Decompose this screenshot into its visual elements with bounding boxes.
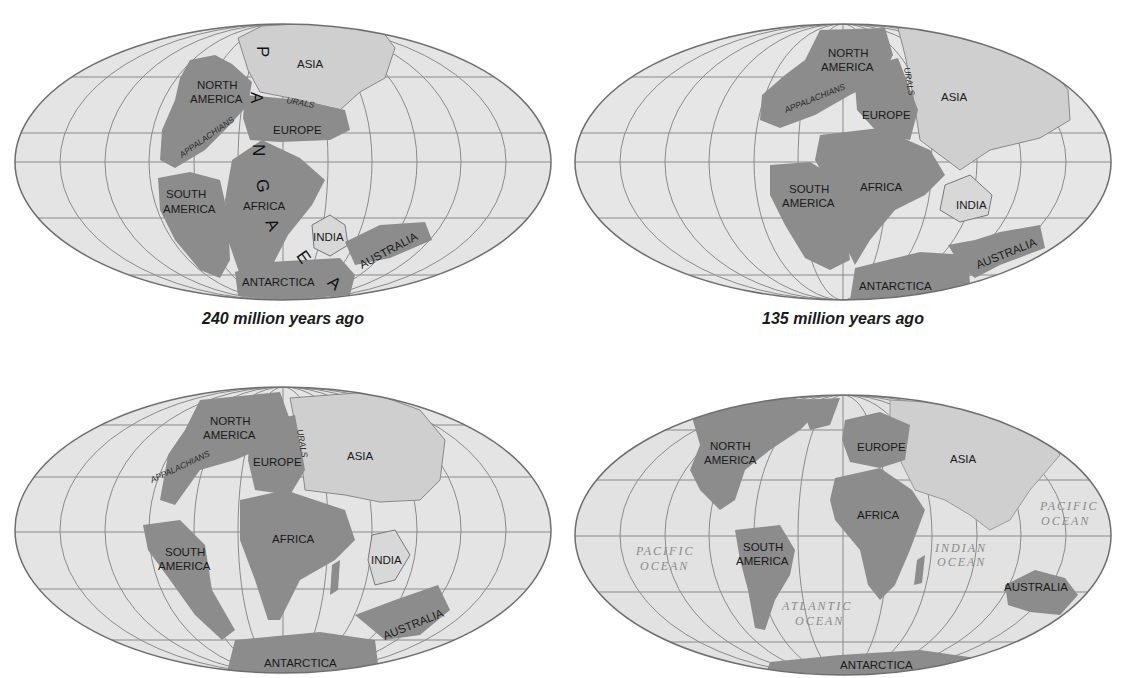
label-europe: EUROPE [273, 124, 322, 136]
label-south-america-line1: SOUTH [165, 546, 205, 558]
label-north-america-line2: AMERICA [203, 429, 256, 441]
label-north-america-line2: AMERICA [190, 93, 243, 105]
label-south-america-line1: SOUTH [166, 188, 206, 200]
label-pacific-ocean-west-line1: PACIFIC [635, 544, 694, 558]
svg-text:N: N [249, 144, 268, 156]
label-north-america-line1: NORTH [210, 415, 251, 427]
label-antarctica: ANTARCTICA [859, 280, 932, 292]
label-indian-ocean-line2: OCEAN [937, 555, 986, 569]
label-north-america-line2: AMERICA [821, 61, 874, 73]
label-antarctica: ANTARCTICA [840, 659, 913, 671]
map-panel-present: NORTH AMERICA EUROPE ASIA AFRICA SOUTH A… [560, 390, 1123, 678]
label-europe: EUROPE [253, 456, 302, 468]
map-panel-intermediate: NORTH AMERICA URALS EUROPE ASIA APPALACH… [0, 380, 600, 678]
label-south-america-line2: AMERICA [158, 560, 211, 572]
label-atlantic-ocean-line1: ATLANTIC [781, 599, 852, 613]
label-europe: EUROPE [862, 109, 911, 121]
label-asia: ASIA [347, 450, 374, 462]
label-india: INDIA [313, 231, 344, 243]
label-south-america-line2: AMERICA [163, 203, 216, 215]
label-pacific-ocean-east-line1: PACIFIC [1039, 499, 1098, 513]
label-pacific-ocean-east-line2: OCEAN [1041, 514, 1090, 528]
label-asia: ASIA [941, 91, 968, 103]
label-north-america-line2: AMERICA [704, 454, 757, 466]
label-europe: EUROPE [857, 441, 906, 453]
label-australia: AUSTRALIA [1004, 581, 1068, 593]
label-north-america-line1: NORTH [197, 79, 238, 91]
label-antarctica: ANTARCTICA [242, 276, 315, 288]
label-asia: ASIA [297, 58, 324, 70]
label-africa: AFRICA [272, 533, 315, 545]
label-south-america-line1: SOUTH [789, 183, 829, 195]
map-panel-240mya: ASIA NORTH AMERICA URALS APPALACHIANS EU… [0, 0, 600, 320]
label-atlantic-ocean-line2: OCEAN [795, 614, 844, 628]
map-panel-135mya: NORTH AMERICA URALS APPALACHIANS ASIA EU… [560, 0, 1123, 320]
label-antarctica: ANTARCTICA [264, 657, 337, 669]
continental-drift-figure: ASIA NORTH AMERICA URALS APPALACHIANS EU… [0, 0, 1123, 678]
label-south-america-line1: SOUTH [743, 541, 783, 553]
label-south-america-line2: AMERICA [736, 555, 789, 567]
label-india: INDIA [371, 554, 402, 566]
label-india: INDIA [956, 199, 987, 211]
caption-135mya: 135 million years ago [693, 310, 993, 328]
label-north-america-line1: NORTH [828, 47, 869, 59]
label-south-america-line2: AMERICA [782, 197, 835, 209]
svg-text:A: A [247, 92, 266, 104]
label-africa: AFRICA [857, 509, 900, 521]
label-africa: AFRICA [860, 181, 903, 193]
label-pacific-ocean-west-line2: OCEAN [640, 559, 689, 573]
caption-240mya: 240 million years ago [133, 310, 433, 328]
label-asia: ASIA [950, 453, 977, 465]
label-north-america-line1: NORTH [710, 440, 751, 452]
label-indian-ocean-line1: INDIAN [934, 541, 987, 555]
svg-text:P: P [253, 46, 272, 57]
label-africa: AFRICA [243, 200, 286, 212]
